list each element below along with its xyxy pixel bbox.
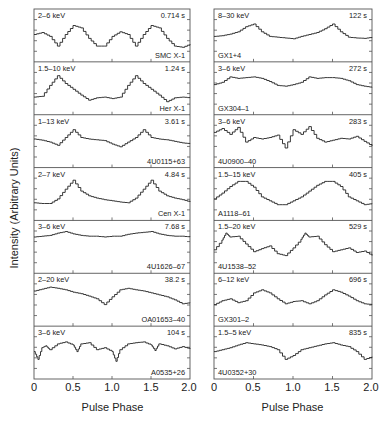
panel-4u0352-30: 1.5–5 keV835 s4U0352+30 — [214, 328, 372, 379]
source-name-label: 4U0900–40 — [218, 157, 256, 166]
source-name-label: A0535+26 — [151, 368, 185, 377]
x-tick-right-2.0: 2.0 — [363, 381, 378, 393]
x-axis-label-right: Pulse Phase — [214, 401, 371, 413]
pulse-profile-line — [34, 232, 190, 238]
source-name-label: GX304–1 — [218, 104, 249, 113]
source-name-label: 4U1626–67 — [147, 262, 185, 271]
source-name-label: GX1+4 — [218, 51, 241, 60]
energy-band-label: 3–6 keV — [38, 328, 65, 337]
energy-band-label: 1.5–20 keV — [218, 222, 255, 231]
x-tick-left-0: 0 — [31, 381, 37, 393]
pulse-profile-figure: Intensity (Arbitrary Units) 2–6 keV0.714… — [0, 0, 385, 421]
pulse-period-label: 529 s — [349, 222, 367, 231]
x-tick-left-1.5: 1.5 — [143, 381, 158, 393]
energy-band-label: 2–20 keV — [38, 275, 69, 284]
energy-band-label: 6–12 keV — [218, 275, 249, 284]
x-axis-label-left: Pulse Phase — [34, 401, 191, 413]
source-name-label: A1118–61 — [218, 209, 251, 218]
x-tick-left-2.0: 2.0 — [181, 381, 196, 393]
panel-her-x-1: 1.5–10 keV1.24 sHer X-1 — [34, 64, 190, 115]
pulse-profile-line — [214, 343, 372, 360]
energy-band-label: 1.5–10 keV — [38, 64, 75, 73]
pulse-profile-line — [34, 180, 190, 203]
energy-band-label: 3–6 keV — [38, 222, 65, 231]
panel-4u1538-52: 1.5–20 keV529 s4U1538–52 — [214, 222, 372, 273]
panel-a0535-26: 3–6 keV104 sA0535+26 — [34, 328, 190, 379]
pulse-profile-line — [214, 127, 372, 148]
pulse-period-label: 104 s — [167, 328, 185, 337]
pulse-period-label: 3.61 s — [165, 117, 185, 126]
energy-band-label: 2–7 keV — [38, 170, 65, 179]
panel-gx304-1: 3–6 keV272 sGX304–1 — [214, 64, 372, 115]
x-tick-right-1.5: 1.5 — [324, 381, 339, 393]
panel-gx1-4: 8–30 keV122 sGX1+4 — [214, 11, 372, 62]
pulse-period-label: 122 s — [349, 11, 367, 20]
source-name-label: OA01653–40 — [141, 315, 185, 324]
panel-4u1626-67: 3–6 keV7.68 s4U1626–67 — [34, 222, 190, 273]
source-name-label: SMC X-1 — [155, 51, 185, 60]
pulse-period-label: 283 s — [349, 117, 367, 126]
pulse-profile-line — [214, 233, 372, 256]
panel-4u0115-63: 1–13 keV3.61 s4U0115+63 — [34, 117, 190, 168]
source-name-label: Her X-1 — [160, 104, 185, 113]
x-tick-right-0.5: 0.5 — [245, 381, 260, 393]
pulse-period-label: 4.84 s — [165, 170, 185, 179]
panel-4u0900-40: 3–6 keV283 s4U0900–40 — [214, 117, 372, 168]
pulse-period-label: 835 s — [349, 328, 367, 337]
x-tick-left-0.5: 0.5 — [65, 381, 80, 393]
x-tick-left-1.0: 1.0 — [104, 381, 119, 393]
panel-oa01653-40: 2–20 keV38.2 sOA01653–40 — [34, 275, 190, 326]
x-tick-right-0: 0 — [211, 381, 217, 393]
energy-band-label: 1.5–5 keV — [218, 328, 251, 337]
pulse-profile-line — [214, 290, 372, 305]
panel-gx301-2: 6–12 keV696 sGX301–2 — [214, 275, 372, 326]
energy-band-label: 8–30 keV — [218, 11, 249, 20]
pulse-period-label: 272 s — [349, 64, 367, 73]
pulse-period-label: 0.714 s — [161, 11, 186, 20]
source-name-label: GX301–2 — [218, 315, 249, 324]
pulse-period-label: 696 s — [349, 275, 367, 284]
pulse-period-label: 405 s — [349, 170, 367, 179]
pulse-profile-line — [214, 77, 372, 87]
pulse-period-label: 7.68 s — [165, 222, 185, 231]
pulse-profile-line — [34, 26, 190, 48]
energy-band-label: 1.5–15 keV — [218, 170, 255, 179]
energy-band-label: 1–13 keV — [38, 117, 69, 126]
pulse-profile-line — [34, 287, 190, 305]
panel-cen-x-1: 2–7 keV4.84 sCen X-1 — [34, 170, 190, 221]
pulse-profile-line — [214, 181, 372, 204]
panel-a1118-61: 1.5–15 keV405 sA1118–61 — [214, 170, 372, 221]
source-name-label: Cen X-1 — [158, 209, 185, 218]
source-name-label: 4U1538–52 — [218, 262, 256, 271]
source-name-label: 4U0115+63 — [147, 157, 185, 166]
source-name-label: 4U0352+30 — [218, 368, 256, 377]
energy-band-label: 3–6 keV — [218, 64, 245, 73]
panel-smc-x-1: 2–6 keV0.714 sSMC X-1 — [34, 11, 190, 62]
pulse-profile-line — [34, 130, 190, 147]
pulse-period-label: 1.24 s — [165, 64, 185, 73]
pulse-profile-line — [34, 342, 190, 361]
pulse-period-label: 38.2 s — [165, 275, 185, 284]
energy-band-label: 2–6 keV — [38, 11, 65, 20]
energy-band-label: 3–6 keV — [218, 117, 245, 126]
pulse-profile-line — [34, 76, 190, 102]
x-tick-right-1.0: 1.0 — [285, 381, 300, 393]
plot-area: 2–6 keV0.714 sSMC X-11.5–10 keV1.24 sHer… — [0, 0, 385, 421]
pulse-profile-line — [214, 24, 372, 39]
